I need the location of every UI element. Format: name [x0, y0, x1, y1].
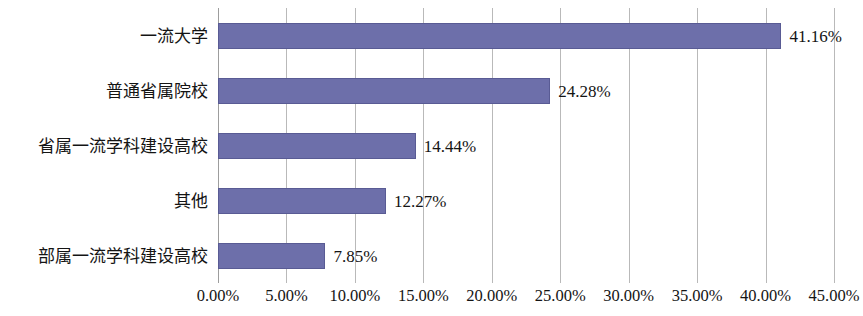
- bar: 12.27%: [218, 188, 386, 214]
- x-axis-tick-label: 5.00%: [265, 288, 308, 305]
- category-axis: 一流大学普通省属院校省属一流学科建设高校其他部属一流学科建设高校: [0, 8, 212, 283]
- plot-area: 41.16%24.28%14.44%12.27%7.85%: [218, 8, 834, 283]
- category-label: 一流大学: [140, 27, 208, 44]
- bar-row: 41.16%: [218, 23, 834, 49]
- x-axis-tick-label: 25.00%: [535, 288, 586, 305]
- bar-value-label: 7.85%: [333, 247, 377, 264]
- bar: 41.16%: [218, 23, 781, 49]
- x-axis-tick-label: 0.00%: [197, 288, 240, 305]
- bar-chart: 一流大学普通省属院校省属一流学科建设高校其他部属一流学科建设高校 41.16%2…: [0, 0, 863, 316]
- bar-value-label: 12.27%: [394, 192, 446, 209]
- bar-value-label: 24.28%: [558, 82, 610, 99]
- category-label: 部属一流学科建设高校: [38, 247, 208, 264]
- bar-row: 24.28%: [218, 78, 834, 104]
- x-axis-tick-label: 35.00%: [672, 288, 723, 305]
- x-axis-tick-label: 30.00%: [603, 288, 654, 305]
- bar-series: 41.16%24.28%14.44%12.27%7.85%: [218, 8, 834, 283]
- category-label: 普通省属院校: [106, 82, 208, 99]
- bar-row: 7.85%: [218, 243, 834, 269]
- bar: 24.28%: [218, 78, 550, 104]
- bar-row: 12.27%: [218, 188, 834, 214]
- bar: 7.85%: [218, 243, 325, 269]
- category-label: 省属一流学科建设高校: [38, 137, 208, 154]
- x-axis-tick-label: 45.00%: [809, 288, 860, 305]
- bar-value-label: 41.16%: [789, 27, 841, 44]
- bar-value-label: 14.44%: [424, 137, 476, 154]
- x-axis-tick-label: 20.00%: [466, 288, 517, 305]
- x-axis-tick-label: 10.00%: [329, 288, 380, 305]
- x-axis-tick-label: 15.00%: [398, 288, 449, 305]
- category-label: 其他: [174, 192, 208, 209]
- value-axis: 0.00%5.00%10.00%15.00%20.00%25.00%30.00%…: [218, 288, 834, 314]
- x-axis-tick-label: 40.00%: [740, 288, 791, 305]
- bar-row: 14.44%: [218, 133, 834, 159]
- bar: 14.44%: [218, 133, 416, 159]
- gridline: [834, 8, 835, 283]
